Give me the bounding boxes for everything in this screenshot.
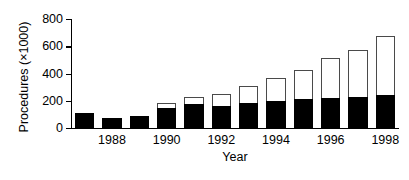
bar-segment-lower [266,101,285,128]
bar-segment-upper [348,50,367,98]
y-axis-line [71,19,72,128]
bar-segment-upper [266,78,285,100]
y-tick-mark [66,46,71,47]
bar-segment-lower [184,104,203,128]
bar [130,116,149,128]
y-tick-label: 200 [42,94,63,108]
x-tick-label: 1998 [371,133,399,147]
x-tick-label: 1996 [317,133,345,147]
y-axis-title: Procedures (×1000) [17,7,31,147]
y-tick-label: 400 [42,67,63,81]
y-tick-mark [66,19,71,20]
bar [266,78,285,128]
plot-area: 0200400600800 198819901992199419961998 [71,19,399,128]
bar-segment-lower [75,113,94,128]
bar-segment-lower [348,97,367,128]
bar-segment-upper [376,36,395,95]
bar [75,113,94,128]
bar [157,103,176,128]
bar [376,36,395,128]
x-tick-label: 1992 [207,133,235,147]
bar-segment-upper [239,86,258,104]
bar-segment-lower [239,103,258,128]
y-tick-mark [66,101,71,102]
y-tick-mark [66,128,71,129]
bar [239,86,258,128]
bar-segment-lower [294,99,313,128]
y-tick-label: 800 [42,12,63,26]
bar [321,58,340,128]
x-axis-title: Year [71,150,399,164]
y-tick-label: 600 [42,39,63,53]
bar-segment-lower [130,116,149,128]
x-tick-label: 1990 [153,133,181,147]
x-axis-line [71,128,399,129]
bar [348,50,367,128]
bar-segment-lower [321,98,340,128]
bar [102,118,121,128]
bar [294,70,313,128]
bar-segment-lower [157,108,176,128]
bar-segment-upper [294,70,313,99]
bar-segment-upper [184,97,203,104]
x-tick-label: 1994 [262,133,290,147]
bar [212,94,231,128]
bar-segment-upper [321,58,340,98]
bar-segment-upper [212,94,231,105]
y-tick-mark [66,74,71,75]
bar [184,97,203,128]
bar-segment-lower [102,118,121,128]
bar-segment-lower [212,106,231,128]
bar-chart-figure: Procedures (×1000) 0200400600800 1988199… [0,0,409,180]
y-tick-label: 0 [56,121,63,135]
bar-segment-lower [376,95,395,128]
x-tick-label: 1988 [98,133,126,147]
